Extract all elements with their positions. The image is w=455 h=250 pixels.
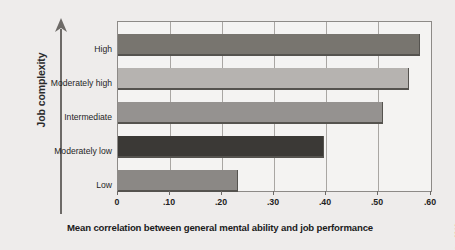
x-tick-label-040: .40	[310, 197, 340, 207]
x-tick-label-0: 0	[102, 197, 132, 207]
tick-mark-060	[430, 191, 431, 195]
x-tick-label-060: .60	[415, 197, 445, 207]
tick-mark-0	[117, 191, 118, 195]
tick-mark-030	[273, 191, 274, 195]
x-tick-label-030: .30	[258, 197, 288, 207]
y-tick-label-high: High	[12, 44, 112, 54]
tick-mark-020	[221, 191, 222, 195]
bar-moderately-high[interactable]	[118, 68, 409, 90]
y-axis-tick-labels: High Moderately high Intermediate Modera…	[56, 21, 115, 190]
y-tick-label-low: Low	[12, 180, 112, 190]
bar-low[interactable]	[118, 170, 238, 192]
y-tick-label-moderately-high: Moderately high	[12, 78, 112, 88]
tick-mark-010	[169, 191, 170, 195]
bar-moderately-low[interactable]	[118, 136, 324, 158]
bar-high[interactable]	[118, 34, 420, 56]
x-tick-label-020: .20	[206, 197, 236, 207]
tick-mark-040	[325, 191, 326, 195]
x-tick-label-050: .50	[362, 197, 392, 207]
y-tick-label-intermediate: Intermediate	[12, 112, 112, 122]
tick-mark-050	[377, 191, 378, 195]
y-tick-label-moderately-low: Moderately low	[12, 146, 112, 156]
bar-intermediate[interactable]	[118, 102, 383, 124]
x-axis-title: Mean correlation between general mental …	[0, 222, 440, 233]
plot-area	[117, 21, 432, 192]
chart-figure: Job complexity High Moderately high Inte…	[0, 0, 455, 250]
y-axis-title: Job complexity	[35, 16, 47, 164]
x-tick-label-010: .10	[154, 197, 184, 207]
